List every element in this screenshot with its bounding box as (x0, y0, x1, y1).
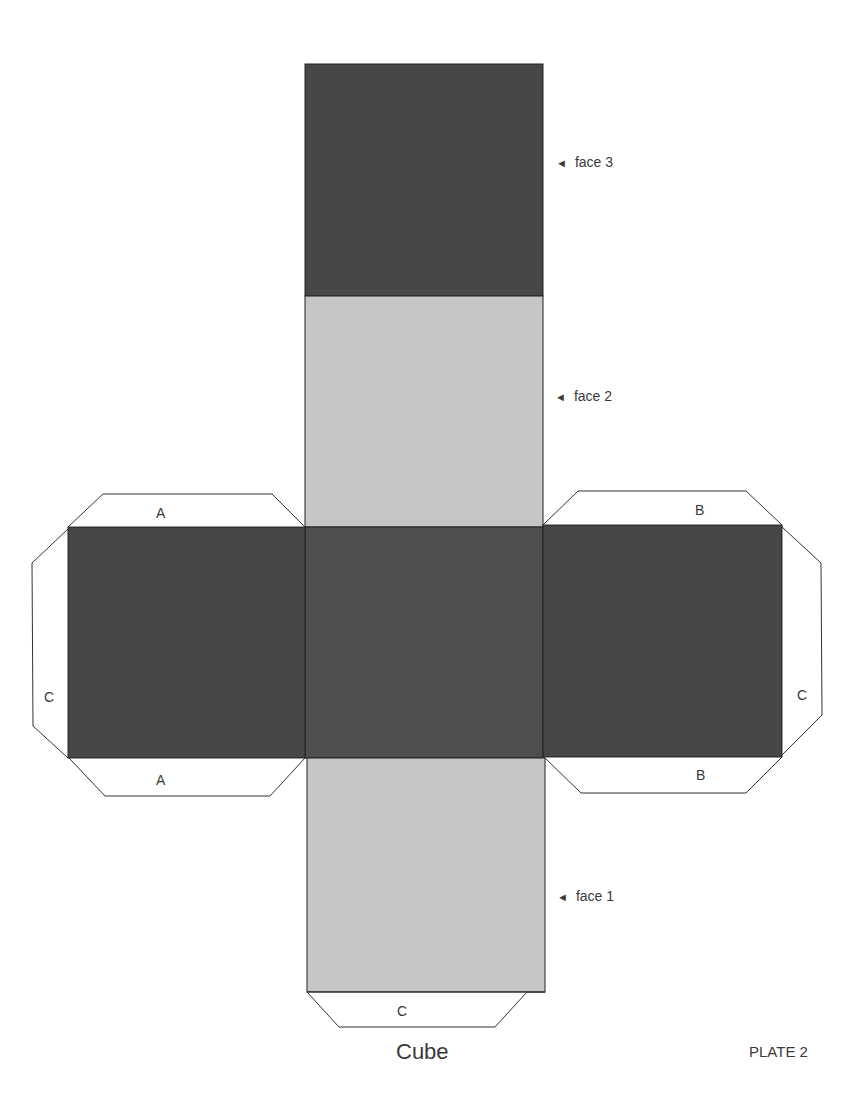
tab-left-top (68, 494, 305, 527)
tab-label-left-side: C (44, 689, 54, 705)
tab-label-right-top: B (695, 502, 704, 518)
pointer-arrow-icon: ◄ (555, 391, 566, 403)
tab-label-left-bottom: A (156, 772, 165, 788)
face-1-label: ◄face 1 (557, 888, 614, 904)
face-2-label: ◄face 2 (555, 388, 612, 404)
plate-number: PLATE 2 (749, 1043, 808, 1060)
face-2-text: face 2 (574, 388, 612, 404)
face-left (68, 527, 305, 758)
tab-right-side (782, 527, 822, 755)
face-2 (305, 296, 543, 527)
tab-label-bottom: C (397, 1003, 407, 1019)
face-center (305, 527, 543, 758)
tab-bottom (307, 992, 527, 1027)
tab-left-side (32, 529, 68, 758)
diagram-title: Cube (396, 1039, 449, 1065)
tab-left-bottom (69, 758, 305, 796)
face-right (543, 525, 782, 757)
tab-right-top (543, 491, 782, 525)
tab-label-right-side: C (797, 687, 807, 703)
tab-label-left-top: A (156, 505, 165, 521)
face-3 (305, 64, 543, 296)
tab-label-right-bottom: B (696, 767, 705, 783)
face-1 (307, 758, 545, 992)
pointer-arrow-icon: ◄ (556, 157, 567, 169)
face-3-text: face 3 (575, 154, 613, 170)
tab-right-bottom (544, 757, 782, 793)
cube-net (0, 0, 862, 1105)
face-3-label: ◄face 3 (556, 154, 613, 170)
face-1-text: face 1 (576, 888, 614, 904)
pointer-arrow-icon: ◄ (557, 891, 568, 903)
